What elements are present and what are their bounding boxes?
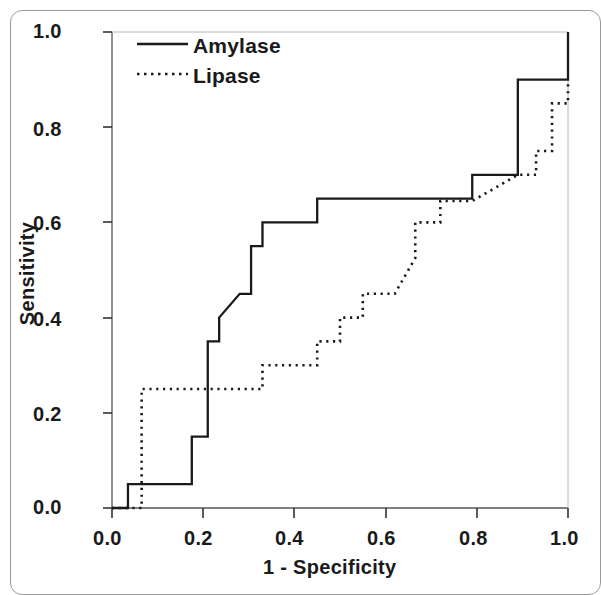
roc-curve-amylase: [112, 32, 568, 508]
x-axis-ticks: [112, 508, 568, 518]
y-axis-ticks: [103, 32, 112, 508]
roc-curve-lipase: [112, 80, 568, 508]
